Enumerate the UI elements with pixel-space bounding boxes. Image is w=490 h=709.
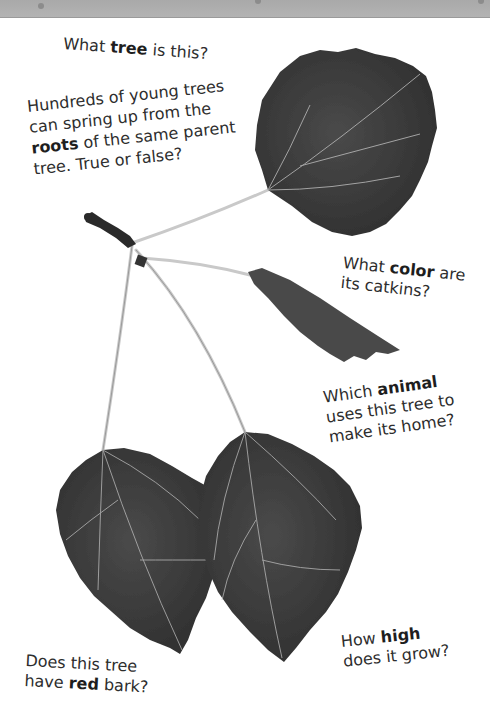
question-red-bark: Does this tree have red bark? bbox=[24, 651, 150, 697]
q1-keyword: tree bbox=[110, 37, 148, 59]
q1-text-pre: What bbox=[63, 34, 111, 56]
leaf-bottom-right bbox=[198, 432, 362, 662]
q1-text-post: is this? bbox=[147, 40, 209, 63]
q5-text-pre: have bbox=[24, 671, 69, 692]
stems bbox=[103, 190, 268, 450]
q5-text-post: bark? bbox=[98, 675, 148, 697]
stem-shadows bbox=[103, 246, 245, 450]
leaf-top-right bbox=[255, 48, 437, 236]
q3-text-post: are bbox=[433, 263, 466, 285]
q5-keyword: red bbox=[68, 673, 99, 694]
